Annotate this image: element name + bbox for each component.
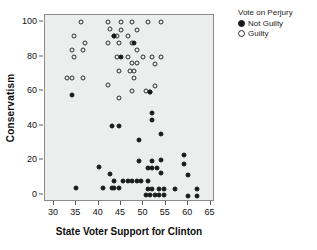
y-tick-label: 100 <box>22 16 37 26</box>
x-axis-title: State Voter Support for Clinton <box>44 226 214 237</box>
data-point-not-guilty <box>195 187 200 192</box>
data-point-not-guilty <box>186 193 191 198</box>
data-point-not-guilty <box>172 187 177 192</box>
data-point-guilty <box>105 19 110 24</box>
data-point-guilty <box>83 40 88 45</box>
y-axis: Conservatism 020406080100 <box>0 0 44 215</box>
legend-item-label: Guilty <box>248 29 268 38</box>
data-point-guilty <box>130 89 135 94</box>
data-point-guilty <box>105 83 110 88</box>
y-tick-label: 40 <box>27 120 37 130</box>
data-point-guilty <box>152 62 157 67</box>
data-point-not-guilty <box>107 172 112 177</box>
legend: Vote on Perjury Not Guilty Guilty <box>238 8 293 38</box>
data-point-guilty <box>152 83 157 88</box>
x-tick-label: 65 <box>205 207 215 217</box>
data-point-guilty <box>69 47 74 52</box>
y-tick-label: 0 <box>32 189 37 199</box>
x-tick-label: 35 <box>70 207 80 217</box>
y-tick-mark <box>39 20 43 21</box>
data-point-not-guilty <box>181 153 186 158</box>
data-point-not-guilty <box>116 123 121 128</box>
plot-frame <box>44 14 214 201</box>
y-tick-label: 80 <box>27 51 37 61</box>
data-point-not-guilty <box>112 179 117 184</box>
open-circle-icon <box>238 30 245 37</box>
data-point-not-guilty <box>159 171 164 176</box>
y-tick-label: 60 <box>27 85 37 95</box>
data-point-guilty <box>116 96 121 101</box>
data-point-guilty <box>105 40 110 45</box>
data-point-not-guilty <box>110 123 115 128</box>
x-tick-mark <box>98 201 99 205</box>
data-point-not-guilty <box>150 110 155 115</box>
data-point-guilty <box>81 47 86 52</box>
data-point-not-guilty <box>74 186 79 191</box>
y-tick-label: 20 <box>27 154 37 164</box>
data-point-not-guilty <box>186 173 191 178</box>
data-point-guilty <box>72 54 77 59</box>
y-tick-mark <box>39 90 43 91</box>
legend-item-label: Not Guilty <box>248 19 283 28</box>
data-point-not-guilty <box>116 186 121 191</box>
x-tick-mark <box>75 201 76 205</box>
plot-area <box>45 15 213 200</box>
y-tick-mark <box>39 159 43 160</box>
y-axis-title: Conservatism <box>5 38 16 178</box>
y-tick-mark <box>39 194 43 195</box>
x-tick-label: 55 <box>160 207 170 217</box>
data-point-guilty <box>119 27 124 32</box>
x-tick-mark <box>53 201 54 205</box>
x-tick-label: 30 <box>48 207 58 217</box>
y-tick-mark <box>39 124 43 125</box>
data-point-not-guilty <box>145 179 150 184</box>
filled-circle-icon <box>238 20 245 27</box>
x-tick-mark <box>187 201 188 205</box>
data-point-not-guilty <box>69 92 74 97</box>
data-point-guilty <box>130 19 135 24</box>
data-point-guilty <box>150 55 155 60</box>
scatter-chart: Conservatism 020406080100 30354045505560… <box>0 0 317 250</box>
data-point-guilty <box>116 69 121 74</box>
data-point-not-guilty <box>150 159 155 164</box>
data-point-not-guilty <box>159 131 164 136</box>
data-point-not-guilty <box>119 55 124 60</box>
x-tick-label: 45 <box>115 207 125 217</box>
data-point-not-guilty <box>195 193 200 198</box>
x-tick-label: 40 <box>93 207 103 217</box>
data-point-guilty <box>134 27 139 32</box>
data-point-guilty <box>69 76 74 81</box>
data-point-not-guilty <box>132 40 137 45</box>
data-point-not-guilty <box>136 159 141 164</box>
data-point-not-guilty <box>112 33 117 38</box>
data-point-not-guilty <box>148 90 153 95</box>
data-point-not-guilty <box>159 157 164 162</box>
data-point-guilty <box>141 55 146 60</box>
data-point-guilty <box>132 69 137 74</box>
data-point-guilty <box>81 76 86 81</box>
data-point-not-guilty <box>150 187 155 192</box>
data-point-guilty <box>116 40 121 45</box>
data-point-not-guilty <box>161 187 166 192</box>
data-point-guilty <box>78 19 83 24</box>
data-point-guilty <box>119 19 124 24</box>
data-point-guilty <box>159 55 164 60</box>
data-point-guilty <box>125 54 130 59</box>
legend-item-not-guilty[interactable]: Not Guilty <box>238 19 293 28</box>
data-point-not-guilty <box>139 179 144 184</box>
data-point-not-guilty <box>154 166 159 171</box>
data-point-guilty <box>134 47 139 52</box>
data-point-guilty <box>132 76 137 81</box>
data-point-guilty <box>72 33 77 38</box>
data-point-guilty <box>125 33 130 38</box>
data-point-guilty <box>134 61 139 66</box>
x-tick-mark <box>210 201 211 205</box>
data-point-guilty <box>159 19 164 24</box>
x-tick-mark <box>165 201 166 205</box>
legend-item-guilty[interactable]: Guilty <box>238 29 293 38</box>
x-tick-mark <box>142 201 143 205</box>
data-point-not-guilty <box>101 186 106 191</box>
data-point-not-guilty <box>96 165 101 170</box>
data-point-not-guilty <box>161 193 166 198</box>
legend-title: Vote on Perjury <box>238 8 293 17</box>
